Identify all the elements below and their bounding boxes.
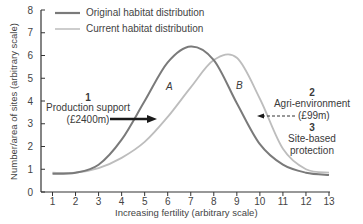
x-tick-label: 11 [278, 196, 289, 207]
x-tick-label: 9 [234, 196, 240, 207]
legend-original-label: Original habitat distribution [86, 7, 204, 18]
policy-3-text-line1: Site-based [262, 133, 362, 144]
policy-3-number: 3 [292, 122, 332, 133]
legend-current-label: Current habitat distribution [86, 23, 203, 34]
y-tick-label: 2 [27, 141, 33, 152]
x-tick-label: 8 [211, 196, 217, 207]
x-tick-label: 13 [323, 196, 335, 207]
x-tick-label: 1 [50, 196, 56, 207]
region-b-label: B [236, 80, 243, 91]
x-axis-label: Increasing fertility (arbitrary scale) [115, 207, 258, 218]
y-axis-ticks: 012345678 [27, 5, 45, 198]
x-tick-label: 7 [188, 196, 194, 207]
x-tick-label: 12 [300, 196, 312, 207]
y-tick-label: 3 [27, 118, 33, 129]
y-tick-label: 4 [27, 96, 33, 107]
x-tick-label: 10 [254, 196, 266, 207]
habitat-distribution-chart: 012345678 12345678910111213 Original hab… [0, 0, 363, 224]
agri-environment-arrowhead [257, 114, 264, 119]
policy-3-text-line2: protection [262, 145, 362, 156]
x-tick-label: 3 [96, 196, 102, 207]
policy-1-text: Production support [38, 102, 138, 113]
y-tick-label: 8 [27, 5, 33, 16]
y-axis-label: Number/area of sites (arbitrary scale) [8, 17, 19, 187]
production-support-arrowhead [147, 115, 157, 123]
x-tick-label: 5 [142, 196, 148, 207]
policy-2-text: Agri-environment [262, 98, 362, 109]
region-a-label: A [166, 81, 173, 92]
y-tick-label: 0 [27, 187, 33, 198]
y-tick-label: 6 [27, 50, 33, 61]
x-tick-label: 2 [73, 196, 79, 207]
y-tick-label: 5 [27, 73, 33, 84]
x-tick-label: 4 [119, 196, 125, 207]
policy-2-amount: (£99m) [298, 110, 330, 121]
y-tick-label: 7 [27, 27, 33, 38]
policy-2-number: 2 [292, 87, 332, 98]
x-tick-label: 6 [165, 196, 171, 207]
y-tick-label: 1 [27, 164, 33, 175]
policy-1-amount: (£2400m) [38, 114, 138, 125]
x-axis-ticks: 12345678910111213 [50, 192, 335, 207]
